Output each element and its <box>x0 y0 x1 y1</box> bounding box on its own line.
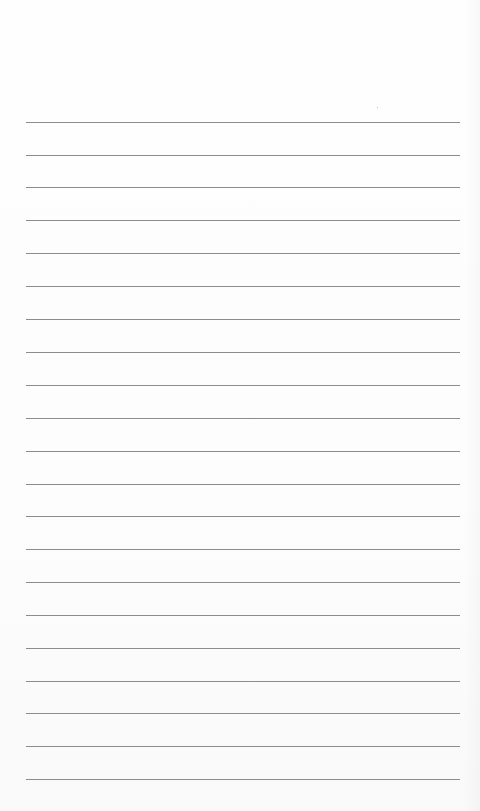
ruled-line <box>26 451 460 452</box>
ruled-line <box>26 253 460 254</box>
ruled-line <box>26 122 460 123</box>
ruled-line <box>26 352 460 353</box>
ruled-line <box>26 385 460 386</box>
ruled-line <box>26 713 460 714</box>
ruled-line <box>26 220 460 221</box>
ruled-line <box>26 319 460 320</box>
ruled-line <box>26 615 460 616</box>
lined-paper-page <box>0 0 480 811</box>
paper-speck <box>377 107 378 108</box>
ruled-line <box>26 746 460 747</box>
ruled-line <box>26 648 460 649</box>
ruled-line <box>26 549 460 550</box>
ruled-line <box>26 286 460 287</box>
ruled-line <box>26 516 460 517</box>
ruled-line <box>26 681 460 682</box>
ruled-line <box>26 418 460 419</box>
ruled-line <box>26 484 460 485</box>
ruled-line <box>26 582 460 583</box>
ruled-line <box>26 155 460 156</box>
ruled-line <box>26 187 460 188</box>
ruled-line <box>26 779 460 780</box>
